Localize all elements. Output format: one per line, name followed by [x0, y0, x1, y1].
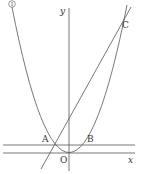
y-axis-label: y	[59, 6, 66, 16]
parabola-curve	[12, 5, 127, 153]
x-axis-label: x	[128, 155, 133, 165]
origin-label: O	[60, 155, 67, 165]
parabola-diagram: 1 y x O A B C	[0, 0, 141, 174]
point-c-label: C	[122, 20, 129, 30]
curve-label: 1	[10, 1, 13, 7]
point-b-label: B	[87, 134, 94, 144]
point-a-label: A	[41, 134, 49, 144]
